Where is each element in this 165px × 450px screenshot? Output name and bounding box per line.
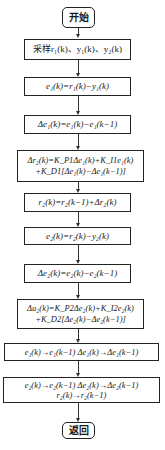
step-delta-e2: Δe₂(k)=e₂(k)−e₂(k−1) [24,264,131,283]
step-text: r₂(k)=r₂(k−1)+Δr₂(k) [39,197,117,208]
step-text: e₂(k)→e₂(k−1) Δe₂(k)→Δe₂(k−1) [25,380,139,390]
step-text: e₁(k)→e₁(k−1) Δe₁(k)→Δe₁(k−1) [25,347,139,358]
step-delta-u2: Δu₂(k)=K_P2Δe₂(k)+K_I2e₂(k) +K_D2[Δe₂(k)… [17,299,144,329]
connector [78,244,79,260]
step-text: +K_D1[Δe₁(k)−Δe₁(k−1)] [35,166,126,177]
step-text: Δu₂(k)=K_P2Δe₂(k)+K_I2e₂(k) [27,303,134,314]
connector [78,95,79,111]
connector [78,27,79,34]
start-node: 开始 [62,7,95,28]
step-shift-1: e₁(k)→e₁(k−1) Δe₁(k)→Δe₁(k−1) [4,343,159,361]
end-label: 返回 [69,425,89,436]
step-text: Δr₂(k)=K_P1Δe₁(k)+K_I1e₁(k) [28,155,134,166]
step-text: Δe₂(k)=e₂(k)−e₂(k−1) [38,268,117,279]
arrow-icon [76,34,80,38]
connector [78,360,79,373]
step-shift-2: e₂(k)→e₂(k−1) Δe₂(k)→Δe₂(k−1) r₂(k)→r₂(k… [3,377,160,403]
step-r2: r₂(k)=r₂(k−1)+Δr₂(k) [24,193,131,212]
step-delta-r2: Δr₂(k)=K_P1Δe₁(k)+K_I1e₁(k) +K_D1[Δe₁(k)… [17,150,144,182]
connector [78,181,79,189]
step-text: 采样r₁(k)、y₁(k)、y₂(k) [33,44,122,55]
connector [78,133,79,146]
step-text: +K_D2[Δe₂(k)−Δe₂(k−1)] [35,314,126,325]
step-text: r₂(k)→r₂(k−1) [57,390,107,400]
connector [78,402,79,418]
step-text: e₁(k)=r₁(k)−y₁(k) [46,81,109,92]
connector [78,60,79,73]
step-e1: e₁(k)=r₁(k)−y₁(k) [24,77,131,96]
step-delta-e1: Δe₁(k)=e₁(k)−e₁(k−1) [24,115,131,134]
step-e2: e₂(k)=r₂(k)−y₂(k) [24,227,131,245]
step-text: e₂(k)=r₂(k)−y₂(k) [46,231,109,242]
start-label: 开始 [69,12,89,23]
step-sample: 采样r₁(k)、y₁(k)、y₂(k) [24,39,131,60]
end-node: 返回 [62,422,95,439]
connector [78,282,79,295]
step-text: Δe₁(k)=e₁(k)−e₁(k−1) [38,119,117,130]
connector [78,328,79,339]
connector [78,211,79,223]
